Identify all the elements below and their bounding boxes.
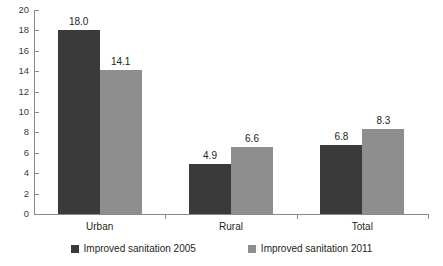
- y-axis-tick-mark: [34, 214, 39, 215]
- y-axis-tick-label: 4: [24, 167, 29, 178]
- y-axis-tick-label: 0: [24, 208, 29, 219]
- bar-value-label: 6.8: [334, 131, 348, 143]
- legend-swatch-icon: [71, 245, 79, 253]
- bar-value-label: 14.1: [111, 56, 130, 68]
- bar-value-label: 18.0: [69, 16, 88, 28]
- y-axis-tick-label: 8: [24, 126, 29, 137]
- y-axis-tick-label: 6: [24, 147, 29, 158]
- bar-urban-series1: 14.1: [100, 70, 142, 214]
- x-axis-category-label: Urban: [86, 221, 113, 233]
- x-axis-tick-mark: [297, 214, 298, 219]
- y-axis-tick-label: 10: [18, 106, 29, 117]
- x-axis-line: [34, 214, 428, 215]
- y-axis-tick-label: 20: [18, 4, 29, 15]
- bar-urban-series0: 18.0: [58, 30, 100, 214]
- legend-label: Improved sanitation 2011: [261, 243, 373, 255]
- bar-value-label: 4.9: [203, 150, 217, 162]
- bar-chart: 02468101214161820 18.014.14.96.66.88.3 U…: [0, 0, 443, 266]
- y-axis-tick-label: 16: [18, 45, 29, 56]
- bars-layer: 18.014.14.96.66.88.3: [34, 10, 428, 214]
- bar-value-label: 8.3: [376, 115, 390, 127]
- legend-item-1[interactable]: Improved sanitation 2011: [248, 243, 373, 255]
- y-axis-tick: 0: [34, 214, 39, 215]
- bar-total-series1: 8.3: [362, 129, 404, 214]
- y-axis-tick-label: 2: [24, 188, 29, 199]
- bar-total-series0: 6.8: [320, 145, 362, 214]
- legend-swatch-icon: [248, 245, 256, 253]
- y-axis-tick-label: 18: [18, 24, 29, 35]
- bar-value-label: 6.6: [245, 133, 259, 145]
- bar-rural-series1: 6.6: [231, 147, 273, 214]
- chart-legend: Improved sanitation 2005Improved sanitat…: [0, 243, 443, 255]
- y-axis-tick-label: 12: [18, 86, 29, 97]
- bar-rural-series0: 4.9: [189, 164, 231, 214]
- legend-item-0[interactable]: Improved sanitation 2005: [71, 243, 196, 255]
- y-axis-tick-label: 14: [18, 65, 29, 76]
- x-axis-category-label: Rural: [219, 221, 243, 233]
- x-axis-category-label: Total: [352, 221, 373, 233]
- legend-label: Improved sanitation 2005: [84, 243, 196, 255]
- x-axis-tick-mark: [428, 214, 429, 219]
- x-axis-tick-mark: [165, 214, 166, 219]
